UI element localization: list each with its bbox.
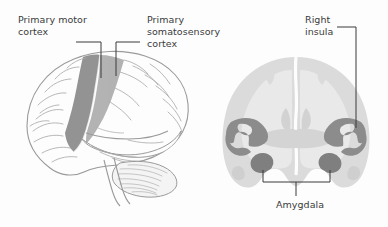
coronal-brain-section <box>223 57 370 188</box>
label-right-insula: Right insula <box>305 14 333 38</box>
interhemispheric-fissure <box>295 57 296 175</box>
label-primary-motor-cortex: Primary motor cortex <box>18 14 87 38</box>
label-amygdala: Amygdala <box>276 199 324 211</box>
lateral-brain-view <box>27 51 188 206</box>
label-primary-somatosensory-cortex: Primary somatosensory cortex <box>147 14 220 51</box>
basal-ganglia-band <box>262 129 330 149</box>
